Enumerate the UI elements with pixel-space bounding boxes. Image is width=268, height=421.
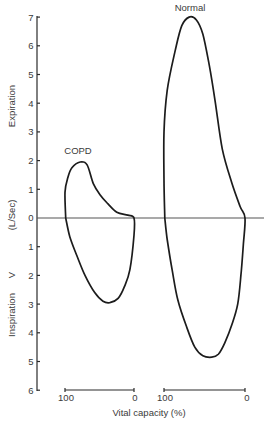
normal-scale-right-label: 0 xyxy=(244,392,249,403)
y-tick-label: 4 xyxy=(28,98,33,109)
y-tick-label: 5 xyxy=(28,69,33,80)
y-label-inspiration: Inspiration xyxy=(6,293,17,337)
normal-vc-scale: 100 0 xyxy=(157,388,250,403)
y-label-unit: (L/Sec) xyxy=(6,200,17,231)
copd-scale-right-label: 0 xyxy=(132,392,137,403)
y-tick-label: 2 xyxy=(28,155,33,166)
normal-label: Normal xyxy=(175,2,206,13)
copd-scale-left-label: 100 xyxy=(58,392,74,403)
normal-flow-volume-loop xyxy=(164,17,245,358)
x-axis-label: Vital capacity (%) xyxy=(112,407,185,418)
y-label-flow-symbol: V xyxy=(6,271,17,278)
copd-label: COPD xyxy=(64,145,92,156)
y-tick-label: 4 xyxy=(28,327,33,338)
y-tick-label: 6 xyxy=(28,385,33,396)
y-tick-label: 7 xyxy=(28,12,33,23)
y-tick-label: 1 xyxy=(28,184,33,195)
y-tick-label: 5 xyxy=(28,356,33,367)
copd-flow-volume-loop xyxy=(65,162,135,303)
copd-vc-scale: 100 0 xyxy=(58,388,138,403)
y-tick-labels-expiration: 7 6 5 4 3 2 1 0 xyxy=(28,12,33,224)
flow-volume-chart: 7 6 5 4 3 2 1 0 1 2 3 4 5 6 Expiration (… xyxy=(0,0,268,421)
normal-scale-left-label: 100 xyxy=(157,392,173,403)
y-tick-label: 0 xyxy=(28,212,33,223)
y-tick-label: 1 xyxy=(28,241,33,252)
y-tick-label: 2 xyxy=(28,270,33,281)
y-label-expiration: Expiration xyxy=(6,85,17,127)
y-tick-label: 3 xyxy=(28,126,33,137)
y-tick-labels-inspiration: 1 2 3 4 5 6 xyxy=(28,241,33,396)
y-tick-label: 6 xyxy=(28,40,33,51)
y-tick-label: 3 xyxy=(28,299,33,310)
